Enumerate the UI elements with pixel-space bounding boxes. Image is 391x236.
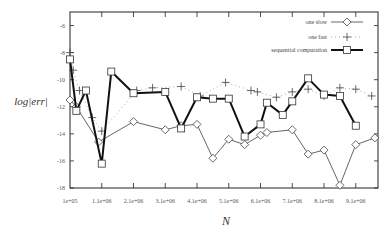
legend-label: sequential computation — [271, 47, 327, 53]
y-tick-label: -10 — [57, 77, 65, 83]
diamond-marker — [193, 120, 201, 128]
x-tick-label: 1.1e+06 — [92, 198, 112, 204]
plus-marker — [343, 33, 351, 41]
diamond-marker — [343, 18, 351, 26]
diamond-marker — [161, 126, 169, 134]
plus-marker — [304, 85, 312, 93]
plot-frame — [70, 12, 378, 188]
series-one-fast — [66, 49, 376, 136]
square-marker — [263, 99, 270, 106]
plus-marker — [288, 88, 296, 96]
square-marker — [130, 90, 137, 97]
legend-label: one fast — [308, 34, 327, 40]
y-tick-label: -8 — [60, 50, 65, 56]
legend: one slowone fastsequential computation — [271, 18, 363, 54]
x-tick-label: 6.1e+06 — [251, 198, 271, 204]
error-chart: -6-8-10-12-14-16-18 1e+051.1e+062.1e+063… — [0, 0, 391, 236]
x-tick-label: 9.1e+06 — [346, 198, 366, 204]
square-marker — [344, 47, 351, 54]
y-axis-label: log|err| — [14, 95, 48, 107]
square-marker — [194, 94, 201, 101]
plus-marker — [66, 49, 74, 57]
plus-marker — [352, 85, 360, 93]
diamond-marker — [304, 150, 312, 158]
plot-border — [70, 12, 378, 188]
x-tick-label: 3.1e+06 — [155, 198, 175, 204]
legend-item: sequential computation — [271, 47, 363, 54]
square-marker — [73, 107, 80, 114]
y-tick-label: -14 — [57, 131, 65, 137]
square-marker — [162, 88, 169, 95]
square-marker — [289, 98, 296, 105]
x-tick-label: 2.1e+06 — [124, 198, 144, 204]
plus-marker — [149, 84, 157, 92]
square-marker — [178, 125, 185, 132]
y-tick-label: -16 — [57, 158, 65, 164]
x-axis-label: N — [221, 214, 231, 228]
x-tick-label: 7.1e+06 — [282, 198, 302, 204]
square-marker — [98, 160, 105, 167]
x-tick-label: 1e+05 — [62, 198, 77, 204]
x-tick-label: 5.1e+06 — [219, 198, 239, 204]
square-marker — [67, 56, 74, 63]
square-marker — [82, 87, 89, 94]
square-marker — [279, 111, 286, 118]
plus-marker — [336, 84, 344, 92]
legend-item: one slow — [306, 18, 364, 26]
plus-marker — [247, 87, 255, 95]
square-marker — [336, 92, 343, 99]
diamond-marker — [288, 126, 296, 134]
square-marker — [257, 121, 264, 128]
legend-label: one slow — [306, 19, 328, 25]
series-one-slow — [66, 96, 379, 189]
y-tick-label: -18 — [57, 185, 65, 191]
square-marker — [241, 133, 248, 140]
plus-marker — [368, 92, 376, 100]
series-sequential-computation — [67, 56, 360, 167]
y-tick-label: -12 — [57, 104, 65, 110]
diamond-marker — [130, 118, 138, 126]
plus-marker — [177, 82, 185, 90]
series-layer — [66, 49, 379, 190]
x-tick-label: 4.1e+06 — [187, 198, 207, 204]
diamond-marker — [320, 146, 328, 154]
square-marker — [321, 91, 328, 98]
plus-marker — [222, 78, 230, 86]
legend-item: one fast — [308, 33, 363, 41]
plus-marker — [253, 88, 261, 96]
square-marker — [108, 68, 115, 75]
square-marker — [352, 122, 359, 129]
square-marker — [209, 95, 216, 102]
diamond-marker — [241, 141, 249, 149]
x-tick-label: 8.1e+06 — [314, 198, 334, 204]
plus-marker — [272, 93, 280, 101]
square-marker — [225, 95, 232, 102]
diamond-marker — [352, 141, 360, 149]
y-tick-label: -6 — [60, 23, 65, 29]
square-marker — [305, 75, 312, 82]
